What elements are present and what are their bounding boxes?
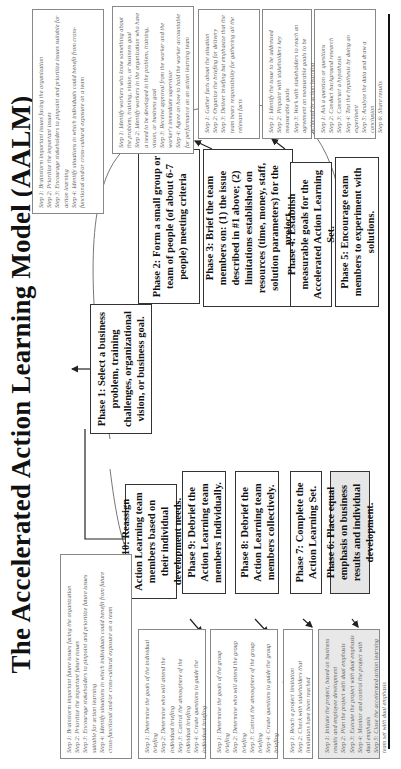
step-text: Step 2: Plan the project with dual empha… xyxy=(339,635,347,753)
step-text: Step 1: Reach a project limitation xyxy=(288,635,296,753)
step-text: Step 1: Identify the issue to be address… xyxy=(267,15,275,133)
step-text: Step 1: Gather facts about the situation xyxy=(203,15,211,133)
phase-9-box: Phase 9: Debrief the Action Learning tea… xyxy=(182,471,226,594)
step-text: Step 5: Analyze the data and draw a conc… xyxy=(360,15,376,133)
step-text: Step 1: Determine the goals of the group… xyxy=(215,635,231,753)
phase-3-label: Phase 3: Brief the team members on: (1) … xyxy=(203,155,294,301)
aalm-diagram: The Accelerated Action Learning Model (A… xyxy=(0,0,401,769)
step-text: Step 2: Prioritize the important future … xyxy=(73,560,81,753)
step-text: Step 2: Prioritize the important issues xyxy=(45,15,53,208)
phase-4-box: Phase 4: Establish measurable goals for … xyxy=(290,162,332,307)
steps-phase-7: Step 1: Reach a project limitation Step … xyxy=(283,629,313,759)
step-text: Step 2: Conduct background research xyxy=(327,15,335,133)
steps-phase-5: Step 1: Ask a question or questions Step… xyxy=(314,9,376,139)
step-text: Step 2: Determine who will attend the gr… xyxy=(231,635,247,753)
step-text: Step 3: Encourage stakeholders to pinpoi… xyxy=(81,560,97,753)
arrow-p7 xyxy=(303,619,312,627)
steps-phase-4: Step 1: Identify the issue to be address… xyxy=(262,9,312,139)
step-text: Step 3: Construct a hypothesis xyxy=(335,15,343,133)
step-text: Step 4: Create questions to guide the in… xyxy=(192,635,208,753)
steps-phase-1: Step 1: Brainstorm important issues faci… xyxy=(32,9,104,214)
step-text: Step 2: Identify workers in the organiza… xyxy=(133,12,158,148)
page-rule xyxy=(388,14,390,749)
arrow-p6 xyxy=(352,619,358,627)
step-text: Step 1: Determine the goals of the indiv… xyxy=(143,635,159,753)
phase-9-label: Phase 9: Debrief the Action Learning tea… xyxy=(185,477,224,588)
step-text: Step 3: Encourage stakeholders to pinpoi… xyxy=(53,15,69,208)
steps-phase-2: Step 1: Identify workers who know someth… xyxy=(112,6,194,154)
step-text: Step 4: Create questions to guide the gr… xyxy=(264,635,280,753)
step-text: Step 3: Work with stakeholders to reach … xyxy=(292,15,317,133)
step-text: Step 4: Agree on how to hold the worker … xyxy=(174,12,190,148)
steps-phase-10: Step 1: Brainstorm important future issu… xyxy=(60,554,132,759)
phase-5-box: Phase 5: Encourage team members to exper… xyxy=(335,157,379,307)
step-text: Step 4: Test the hypothesis by doing an … xyxy=(344,15,360,133)
step-text: Step 3: Receive approval from the worker… xyxy=(158,12,174,148)
phase-6-box: Phase 6: Place equal emphasis on busines… xyxy=(330,471,370,594)
step-text: Step 4: Identify situations in which ind… xyxy=(98,560,114,753)
step-text: Step 1: Identify workers who know someth… xyxy=(117,12,133,148)
step-text: Step 1: Brainstorm important issues faci… xyxy=(37,15,45,208)
step-text: Step 2: Pinpoint with stakeholders key m… xyxy=(275,15,291,133)
phase-7-box: Phase 7: Complete the Action Learning Se… xyxy=(290,471,322,594)
step-text: Step 4: Identify situations in which ind… xyxy=(70,15,86,208)
phase-8-box: Phase 8: Debrief the Action Learning tea… xyxy=(235,471,279,594)
steps-phase-3: Step 1: Gather facts about the situation… xyxy=(198,9,260,139)
step-text: Step 3: Execute the project with dual em… xyxy=(348,635,356,753)
phase-7-label: Phase 7: Complete the Action Learning Se… xyxy=(293,477,319,588)
step-text: Step 4: Monitor and control the project … xyxy=(356,635,372,753)
step-text: Step 3: Control the atmosphere of the gr… xyxy=(248,635,264,753)
step-text: Step 2: Determine who will attend the in… xyxy=(159,635,175,753)
phase-5-label: Phase 5: Encourage team members to exper… xyxy=(338,163,377,301)
step-text: Step 2: Organize the briefing for delive… xyxy=(211,15,219,133)
phase-6-label: Phase 6: Place equal emphasis on busines… xyxy=(324,477,376,588)
phase-10-box: Phase 10: Reassign Action Learning team … xyxy=(125,484,177,599)
phase-4-label: Phase 4: Establish measurable goals for … xyxy=(285,168,337,301)
phase-2-label: Phase 2: Form a small group or team of p… xyxy=(150,155,189,298)
step-text: Step 1: Ask a question or questions xyxy=(319,15,327,133)
arrow-p3 xyxy=(195,141,212,149)
phase-2-box: Phase 2: Form a small group or team of p… xyxy=(138,149,200,304)
phase-1-box: Phase 1: Select a business problem, trai… xyxy=(90,304,152,434)
phase-8-label: Phase 8: Debrief the Action Learning tea… xyxy=(238,477,277,588)
step-text: Step 1: Initiate the project, based on b… xyxy=(323,635,339,753)
step-text: Step 3: Control the atmosphere of the in… xyxy=(176,635,192,753)
step-text: Step 5: Close the accelerated action lea… xyxy=(372,635,388,753)
steps-phase-8: Step 1: Determine the goals of the group… xyxy=(210,629,278,759)
arrow-p4 xyxy=(272,139,285,149)
phase-1-label: Phase 1: Select a business problem, trai… xyxy=(95,310,147,428)
steps-phase-6: Step 1: Initiate the project, based on b… xyxy=(318,629,380,759)
step-text: Step 6: Share results xyxy=(376,15,384,133)
steps-phase-9: Step 1: Determine the goals of the indiv… xyxy=(138,629,206,759)
step-text: Step 2: Check with stakeholders that lim… xyxy=(296,635,312,753)
phase-3-box: Phase 3: Brief the team members on: (1) … xyxy=(203,149,293,307)
step-text: Step 3: Deliver briefing but emphasize t… xyxy=(219,15,244,133)
step-text: Step 1: Brainstorm important future issu… xyxy=(65,560,73,753)
